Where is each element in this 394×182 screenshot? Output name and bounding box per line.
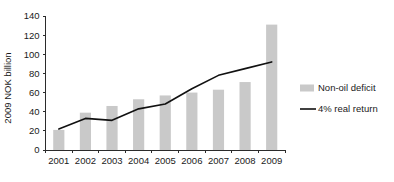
y-tick-label: 60 <box>29 87 40 98</box>
bar-2009 <box>266 25 277 150</box>
bar-line-chart: 2009 NOK billion 020406080100120140 2001… <box>0 0 394 182</box>
y-tick-label: 0 <box>34 144 39 155</box>
y-tick-label: 140 <box>24 10 40 21</box>
x-tick-label-2004: 2004 <box>128 155 149 166</box>
y-tick-label: 40 <box>29 106 40 117</box>
y-tick-label: 20 <box>29 125 40 136</box>
x-tick-label-2003: 2003 <box>101 155 122 166</box>
x-tick-label-2001: 2001 <box>48 155 69 166</box>
bar-2006 <box>186 93 197 150</box>
x-axis-ticks: 200120022003200420052006200720082009 <box>46 150 286 166</box>
x-tick-label-2008: 2008 <box>235 155 256 166</box>
legend-swatch-icon <box>300 85 314 92</box>
chart-container: 2009 NOK billion 020406080100120140 2001… <box>0 0 394 182</box>
legend-label: 4% real return <box>318 103 378 114</box>
y-axis-label: 2009 NOK billion <box>2 52 13 123</box>
x-tick-label-2002: 2002 <box>75 155 96 166</box>
x-tick-label-2006: 2006 <box>181 155 202 166</box>
bar-2001 <box>53 130 64 150</box>
bar-series <box>53 25 277 150</box>
bar-2004 <box>133 99 144 150</box>
bar-2007 <box>213 90 224 150</box>
bar-2003 <box>106 106 117 150</box>
y-axis-ticks: 020406080100120140 <box>24 10 46 155</box>
x-tick-label-2005: 2005 <box>155 155 176 166</box>
y-tick-label: 100 <box>24 49 40 60</box>
legend-label: Non-oil deficit <box>318 82 376 93</box>
y-axis-label-text: 2009 NOK billion <box>2 52 13 123</box>
x-tick-label-2009: 2009 <box>261 155 282 166</box>
chart-legend: Non-oil deficit4% real return <box>300 82 378 114</box>
x-tick-label-2007: 2007 <box>208 155 229 166</box>
y-tick-label: 80 <box>29 68 40 79</box>
bar-2008 <box>239 82 250 150</box>
y-tick-label: 120 <box>24 30 40 41</box>
